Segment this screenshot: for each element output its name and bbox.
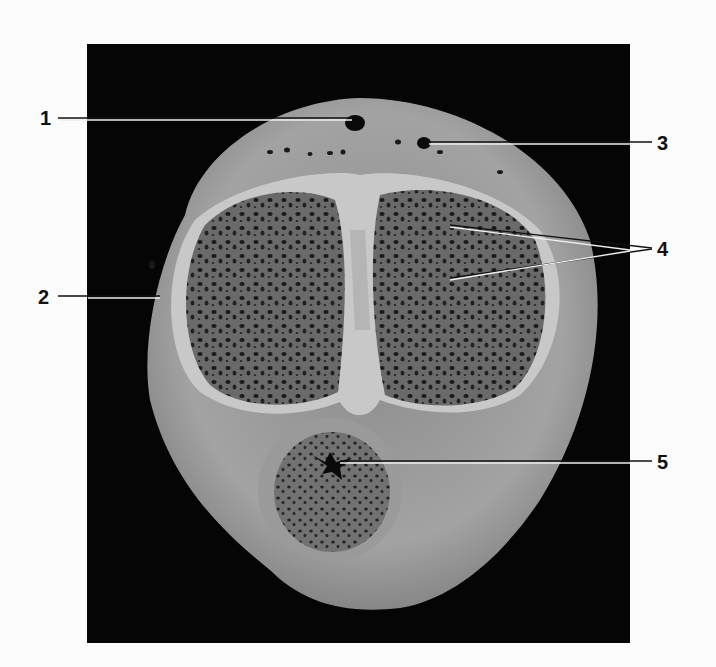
callout-label-1: 1 <box>40 108 51 128</box>
callout-label-3: 3 <box>657 133 668 153</box>
callout-label-4: 4 <box>657 239 668 259</box>
leader-lines <box>0 0 716 667</box>
callout-label-2: 2 <box>38 287 49 307</box>
callout-label-5: 5 <box>657 452 668 472</box>
